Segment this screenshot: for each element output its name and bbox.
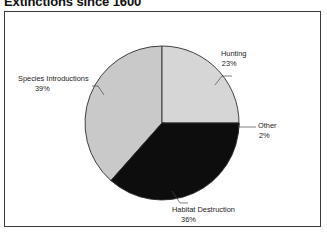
pie-label-other-name: Other (258, 121, 276, 130)
pie-label-hunting-name: Hunting (221, 49, 246, 58)
chart-screenshot: Extinctions since 1600 Hunting 23% Speci… (0, 0, 327, 234)
pie-label-habitat-destruction: Habitat Destruction 36% (172, 205, 235, 224)
pie-label-other-value: 2% (258, 131, 270, 141)
pie-label-species-introductions-value: 39% (18, 84, 67, 94)
pie-chart (0, 0, 327, 234)
pie-label-habitat-destruction-name: Habitat Destruction (172, 205, 235, 214)
pie-label-other: Other 2% (258, 121, 276, 140)
pie-label-species-introductions-name: Species Introductions (18, 74, 89, 83)
pie-label-hunting-value: 23% (221, 59, 237, 69)
pie-label-hunting: Hunting 23% (221, 49, 246, 68)
pie-label-species-introductions: Species Introductions 39% (18, 74, 89, 93)
pie-label-habitat-destruction-value: 36% (172, 215, 205, 225)
